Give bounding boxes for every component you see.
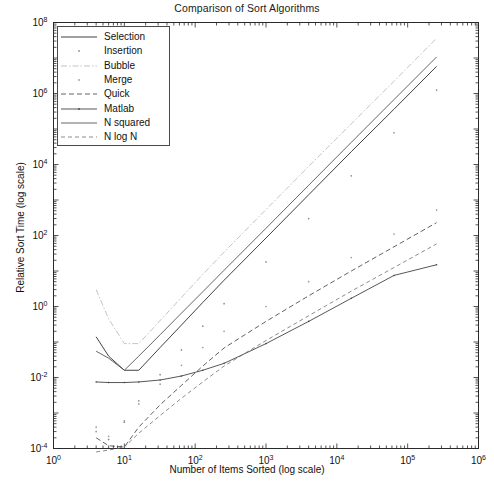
legend-item-matlab[interactable]: Matlab xyxy=(58,101,169,115)
data-point xyxy=(181,375,183,377)
data-point xyxy=(181,349,183,351)
data-point xyxy=(138,400,140,402)
data-point xyxy=(95,431,97,433)
data-point xyxy=(159,383,161,385)
data-point xyxy=(181,364,183,366)
data-point xyxy=(436,209,438,211)
data-point xyxy=(124,382,126,384)
y-tick-label: 100 xyxy=(32,300,47,312)
legend-item-insertion[interactable]: Insertion xyxy=(58,44,169,58)
data-point xyxy=(350,298,352,300)
legend-item-label: N log N xyxy=(100,131,137,143)
data-point xyxy=(159,374,161,376)
y-axis-label: Relative Sort Time (log scale) xyxy=(15,128,26,328)
data-point xyxy=(350,175,352,177)
data-point xyxy=(436,89,438,91)
y-tick-label: 108 xyxy=(32,16,47,28)
legend-item-label: Insertion xyxy=(100,45,142,57)
figure-container: Comparison of Sort Algorithms 10-410-210… xyxy=(0,0,494,486)
legend-item-selection[interactable]: Selection xyxy=(58,30,169,44)
y-tick-label: 10-4 xyxy=(30,442,47,454)
legend-marker xyxy=(78,108,80,110)
data-point xyxy=(350,257,352,259)
data-point xyxy=(159,379,161,381)
data-point xyxy=(123,420,125,422)
legend-line-sample xyxy=(58,31,100,43)
data-point xyxy=(265,343,267,345)
y-tick-label: 102 xyxy=(32,229,47,241)
legend-line-sample xyxy=(58,117,100,129)
legend-line-sample xyxy=(58,60,100,72)
data-point xyxy=(95,426,97,428)
y-tick-label: 104 xyxy=(32,158,47,170)
data-point xyxy=(108,435,110,437)
series-quick xyxy=(96,223,436,447)
legend-item-label: Bubble xyxy=(100,60,135,72)
legend-marker xyxy=(78,79,80,81)
data-point xyxy=(265,261,267,263)
legend-item-label: Quick xyxy=(100,88,130,100)
data-point xyxy=(95,381,97,383)
data-point xyxy=(393,275,395,277)
legend-line-sample xyxy=(58,103,100,115)
legend-marker xyxy=(78,51,80,53)
legend-item-label: Matlab xyxy=(100,103,134,115)
data-point xyxy=(308,321,310,323)
legend-item-label: N squared xyxy=(100,117,150,129)
y-tick-label: 106 xyxy=(32,87,47,99)
data-point xyxy=(108,382,110,384)
legend-item-n-squared[interactable]: N squared xyxy=(58,116,169,130)
legend-line-sample xyxy=(58,45,100,57)
legend-line-sample xyxy=(58,88,100,100)
legend-item-quick[interactable]: Quick xyxy=(58,87,169,101)
data-point xyxy=(223,303,225,305)
series-merge xyxy=(95,209,437,437)
legend-item-bubble[interactable]: Bubble xyxy=(58,59,169,73)
series-line xyxy=(96,265,436,383)
data-point xyxy=(202,325,204,327)
legend-item-label: Selection xyxy=(100,31,145,43)
data-point xyxy=(202,347,204,349)
data-point xyxy=(138,403,140,405)
y-tick-label: 10-2 xyxy=(30,371,47,383)
legend-line-sample xyxy=(58,131,100,143)
data-point xyxy=(308,281,310,283)
series-line xyxy=(96,223,436,447)
data-point xyxy=(393,132,395,134)
data-point xyxy=(138,381,140,383)
legend-item-n-log-n[interactable]: N log N xyxy=(58,130,169,144)
legend-line-sample xyxy=(58,74,100,86)
legend-box: SelectionInsertionBubbleMergeQuickMatlab… xyxy=(57,26,170,146)
data-point xyxy=(223,330,225,332)
series-matlab xyxy=(95,264,437,383)
data-point xyxy=(202,369,204,371)
data-point xyxy=(108,439,110,441)
legend-item-merge[interactable]: Merge xyxy=(58,73,169,87)
x-axis-label: Number of Items Sorted (log scale) xyxy=(0,464,494,475)
data-point xyxy=(436,264,438,266)
data-point xyxy=(223,363,225,365)
data-point xyxy=(265,306,267,308)
data-point xyxy=(308,218,310,220)
data-point xyxy=(393,233,395,235)
legend-item-label: Merge xyxy=(100,74,132,86)
